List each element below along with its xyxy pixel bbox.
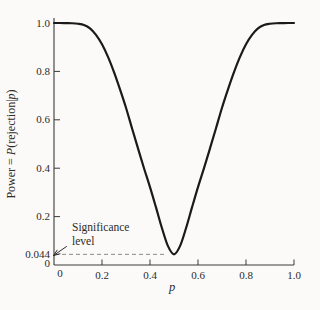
chart-canvas: 0.20.40.60.81.00.0440.20.40.60.81.0 0 0 … <box>0 0 320 310</box>
x-tick-label: 0.2 <box>95 269 109 281</box>
power-curve <box>54 23 294 254</box>
significance-annotation-line2: level <box>72 235 94 247</box>
x-tick-label: 0.6 <box>191 269 205 281</box>
y-axis-title: Power = P(rejection|p) <box>4 89 18 198</box>
x-origin-label: 0 <box>57 267 63 279</box>
y-origin-label: 0 <box>45 257 51 269</box>
tick-marks-and-labels: 0.20.40.60.81.00.0440.20.40.60.81.0 <box>25 17 301 281</box>
power-curve-figure: 0.20.40.60.81.00.0440.20.40.60.81.0 0 0 … <box>0 0 320 310</box>
curve-layer <box>54 23 294 254</box>
x-tick-label: 0.8 <box>239 269 253 281</box>
y-tick-label: 0.8 <box>36 65 50 77</box>
y-tick-label: 0.4 <box>36 162 50 174</box>
x-tick-label: 0.4 <box>143 269 157 281</box>
y-tick-label: 1.0 <box>36 17 50 29</box>
x-axis-title: p <box>168 280 175 294</box>
significance-annotation-line1: Significance <box>72 221 129 234</box>
y-tick-label: 0.2 <box>36 210 50 222</box>
y-tick-label: 0.6 <box>36 113 50 125</box>
x-tick-label: 1.0 <box>287 269 301 281</box>
